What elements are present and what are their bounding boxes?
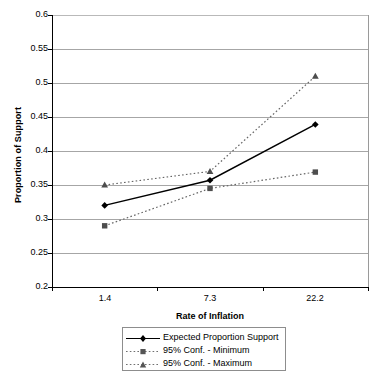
y-axis-tick-labels: 0.20.250.30.350.40.450.50.550.6 [0, 0, 48, 302]
legend-item-expected-proportion-support: Expected Proportion Support [123, 331, 285, 344]
y-tick-label: 0.35 [4, 180, 48, 189]
data-point-marker [101, 182, 108, 188]
y-tick-label: 0.3 [4, 214, 48, 223]
legend-label: Expected Proportion Support [163, 331, 279, 344]
series-line [105, 124, 316, 205]
legend-key-diamond-solid [123, 331, 163, 344]
y-tick-mark [48, 15, 52, 16]
y-tick-label: 0.2 [4, 282, 48, 291]
legend-label: 95% Conf. - Minimum [163, 344, 250, 357]
y-tick-mark [48, 49, 52, 50]
series-plot [52, 15, 368, 287]
x-axis-title: Rate of Inflation [52, 311, 368, 321]
y-tick-label: 0.55 [4, 44, 48, 53]
data-point-marker [102, 223, 107, 228]
y-tick-mark [48, 219, 52, 220]
data-point-marker [207, 186, 212, 191]
y-tick-mark [48, 287, 52, 288]
x-tick-mark [368, 287, 369, 291]
y-tick-mark [48, 83, 52, 84]
y-tick-mark [48, 151, 52, 152]
data-point-marker [101, 202, 108, 209]
y-tick-mark [48, 117, 52, 118]
legend-item-95-conf-minimum: 95% Conf. - Minimum [123, 344, 285, 357]
y-tick-label: 0.4 [4, 146, 48, 155]
x-tick-mark [52, 287, 53, 291]
y-tick-label: 0.5 [4, 78, 48, 87]
legend-item-95-conf-maximum: 95% Conf. - Maximum [123, 357, 285, 370]
y-tick-label: 0.45 [4, 112, 48, 121]
y-tick-label: 0.6 [4, 10, 48, 19]
x-tick-mark [157, 287, 158, 291]
y-tick-mark [48, 185, 52, 186]
data-point-marker [207, 177, 214, 184]
x-axis-line [52, 287, 369, 288]
x-tick-label: 1.4 [75, 293, 135, 303]
line-chart: Proportion of Support 0.20.250.30.350.40… [0, 0, 378, 382]
legend-key-triangle-dotted [123, 357, 163, 370]
x-tick-label: 22.2 [285, 293, 345, 303]
x-tick-mark [263, 287, 264, 291]
legend-key-square-dotted [123, 344, 163, 357]
y-tick-label: 0.25 [4, 248, 48, 257]
data-point-marker [312, 73, 319, 79]
chart-legend: Expected Proportion Support 95% Conf. - … [122, 327, 286, 371]
data-point-marker [312, 121, 319, 128]
legend-label: 95% Conf. - Maximum [163, 357, 252, 370]
plot-border-right [368, 15, 369, 288]
x-tick-label: 7.3 [180, 293, 240, 303]
y-tick-mark [48, 253, 52, 254]
data-point-marker [313, 169, 318, 174]
